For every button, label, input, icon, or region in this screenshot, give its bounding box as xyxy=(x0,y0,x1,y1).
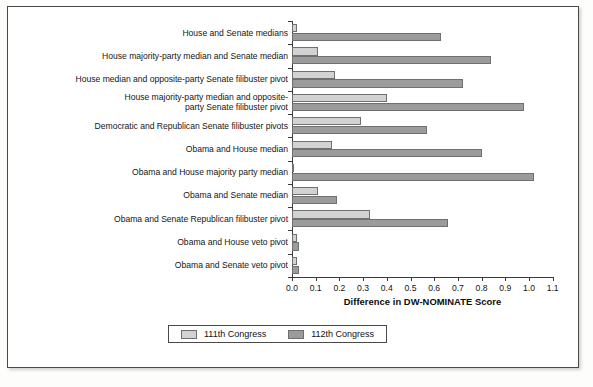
bar-0 xyxy=(292,257,297,265)
bar-0 xyxy=(292,71,335,79)
x-axis-title: Difference in DW-NOMINATE Score xyxy=(292,296,553,307)
x-axis-tick xyxy=(505,277,506,281)
bar-1 xyxy=(292,219,448,227)
x-axis-tick xyxy=(411,277,412,281)
legend-item-112th: 112th Congress xyxy=(288,329,374,339)
x-axis-tick-label: 0.2 xyxy=(327,283,351,293)
x-axis-tick-label: 0.3 xyxy=(351,283,375,293)
bar-0 xyxy=(292,94,387,102)
bar-1 xyxy=(292,56,491,64)
x-axis-line xyxy=(292,277,553,278)
x-axis-tick-label: 0.4 xyxy=(375,283,399,293)
bar-0 xyxy=(292,117,361,125)
y-axis-tick xyxy=(288,184,292,185)
category-label: Democratic and Republican Senate filibus… xyxy=(95,121,288,131)
y-axis-tick xyxy=(288,91,292,92)
category-label: Obama and House veto pivot xyxy=(177,237,288,247)
x-axis-tick xyxy=(458,277,459,281)
x-axis-tick xyxy=(553,277,554,281)
y-axis-tick xyxy=(288,254,292,255)
bar-1 xyxy=(292,266,299,274)
category-label: Obama and Senate veto pivot xyxy=(175,260,288,270)
x-axis-tick xyxy=(529,277,530,281)
y-axis-tick xyxy=(288,21,292,22)
bar-0 xyxy=(292,187,318,195)
bar-1 xyxy=(292,103,524,111)
dark-gray-swatch-icon xyxy=(288,330,304,339)
figure-frame: House and Senate mediansHouse majority-p… xyxy=(7,6,579,368)
category-label: Obama and Senate Republican filibuster p… xyxy=(114,214,288,224)
x-axis-tick xyxy=(292,277,293,281)
bar-1 xyxy=(292,149,482,157)
x-axis-tick-label: 0.8 xyxy=(470,283,494,293)
category-label: House majority-party median and opposite… xyxy=(125,92,289,112)
bar-0 xyxy=(292,24,297,32)
x-axis-tick-label: 0.9 xyxy=(493,283,517,293)
page-background: House and Senate mediansHouse majority-p… xyxy=(0,0,593,387)
y-axis-tick xyxy=(288,230,292,231)
y-axis-tick xyxy=(288,114,292,115)
bar-0 xyxy=(292,210,370,218)
bar-0 xyxy=(292,141,332,149)
category-label: Obama and Senate median xyxy=(183,190,288,200)
category-axis-labels: House and Senate mediansHouse majority-p… xyxy=(8,21,292,277)
x-axis-tick xyxy=(482,277,483,281)
category-label: Obama and House median xyxy=(186,144,288,154)
bar-0 xyxy=(292,234,297,242)
category-label: House majority-party median and Senate m… xyxy=(102,51,288,61)
bar-1 xyxy=(292,173,534,181)
x-axis-tick-label: 1.0 xyxy=(517,283,541,293)
x-axis-tick-label: 0.0 xyxy=(280,283,304,293)
light-gray-swatch-icon xyxy=(181,330,197,339)
legend-label-112th: 112th Congress xyxy=(311,329,374,339)
x-axis-tick-label: 1.1 xyxy=(541,283,565,293)
chart-legend: 111th Congress 112th Congress xyxy=(168,325,387,343)
x-axis-tick-label: 0.7 xyxy=(446,283,470,293)
x-axis-tick-label: 0.6 xyxy=(422,283,446,293)
x-axis-tick xyxy=(363,277,364,281)
y-axis-tick xyxy=(288,44,292,45)
bar-0 xyxy=(292,164,294,172)
bar-0 xyxy=(292,47,318,55)
category-label: House median and opposite-party Senate f… xyxy=(76,74,288,84)
category-label: Obama and House majority party median xyxy=(132,167,288,177)
category-label: House and Senate medians xyxy=(182,28,288,38)
bar-1 xyxy=(292,242,299,250)
x-axis-tick xyxy=(434,277,435,281)
y-axis-tick xyxy=(288,68,292,69)
x-axis-tick xyxy=(339,277,340,281)
legend-item-111th: 111th Congress xyxy=(181,329,266,339)
x-axis-tick-label: 0.5 xyxy=(399,283,423,293)
x-axis-tick xyxy=(387,277,388,281)
x-axis-tick xyxy=(316,277,317,281)
bar-1 xyxy=(292,33,441,41)
bar-1 xyxy=(292,196,337,204)
bar-1 xyxy=(292,79,463,87)
x-axis-tick-label: 0.1 xyxy=(304,283,328,293)
y-axis-tick xyxy=(288,137,292,138)
bar-1 xyxy=(292,126,427,134)
legend-label-111th: 111th Congress xyxy=(204,329,266,339)
bar-chart-plot: House and Senate mediansHouse majority-p… xyxy=(8,7,578,367)
y-axis-tick xyxy=(288,207,292,208)
y-axis-tick xyxy=(288,161,292,162)
